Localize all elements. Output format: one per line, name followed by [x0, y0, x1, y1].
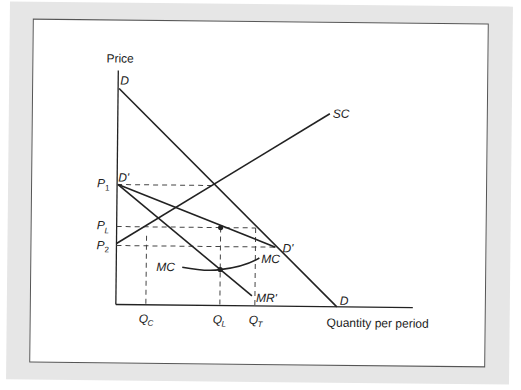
- y-axis: [116, 71, 118, 305]
- quantity-label-qt: Q T: [249, 313, 264, 329]
- y-axis-label: Price: [106, 51, 134, 65]
- price-label-p1: P 1: [97, 176, 110, 192]
- svg-text:P: P: [97, 176, 105, 190]
- svg-text:L: L: [222, 320, 227, 329]
- p2-guide: [116, 245, 275, 247]
- svg-text:T: T: [258, 320, 264, 329]
- svg-text:C: C: [148, 319, 154, 328]
- p1-guide: [117, 185, 213, 186]
- quantity-label-qc: Q C: [139, 312, 154, 328]
- svg-text:2: 2: [104, 245, 109, 254]
- pl-guide: [117, 227, 256, 228]
- label-mc-left: MC: [156, 260, 175, 274]
- svg-text:P: P: [96, 238, 104, 252]
- svg-text:P: P: [97, 218, 105, 232]
- x-axis-label: Quantity per period: [327, 316, 429, 331]
- label-d-bottom: D: [340, 294, 349, 308]
- label-mc-right: MC: [261, 252, 280, 266]
- ql-guide: [220, 228, 221, 306]
- figure-frame: Price Quantity per period P 1 P L P 2 Q …: [0, 0, 521, 390]
- label-dprime-right: D': [282, 241, 294, 255]
- label-d-top: D: [120, 74, 129, 88]
- price-label-p2: P 2: [96, 238, 109, 254]
- price-label-pl: P L: [97, 218, 110, 235]
- dominant-firm-diagram: Price Quantity per period P 1 P L P 2 Q …: [0, 0, 521, 390]
- label-dprime-left: D': [118, 171, 130, 185]
- svg-text:1: 1: [105, 183, 110, 192]
- label-mrprime: MR': [256, 291, 278, 305]
- quantity-label-ql: Q L: [213, 313, 227, 329]
- svg-text:L: L: [105, 226, 110, 235]
- label-sc: SC: [333, 107, 350, 121]
